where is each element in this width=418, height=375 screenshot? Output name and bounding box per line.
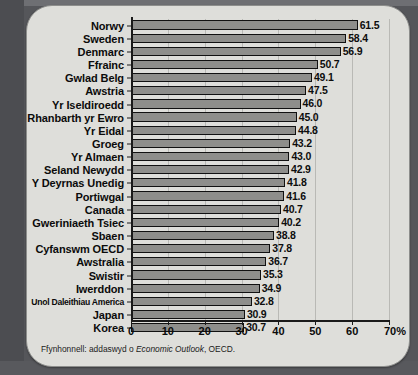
- x-axis-tick-label: 50: [309, 325, 321, 337]
- source-suffix: , OECD.: [204, 344, 235, 354]
- bar-row: 35.3: [131, 269, 389, 282]
- source-publication: Economic Outlook: [136, 344, 204, 354]
- bar: [131, 310, 245, 319]
- category-label: Sbaen: [27, 230, 129, 243]
- bar-row: 36.7: [131, 256, 389, 269]
- bar-value-label: 58.4: [348, 32, 368, 44]
- plot-area: 61.558.456.950.749.147.546.045.044.843.2…: [131, 19, 389, 322]
- bar-value-label: 61.5: [360, 19, 380, 31]
- category-label: Unol Daleithiau America: [27, 295, 129, 308]
- chart-panel: NorwySwedenDenmarcFfraincGwlad BelgAwstr…: [26, 5, 410, 367]
- category-label: Awstria: [27, 85, 129, 98]
- bar: [131, 152, 289, 161]
- bar: [131, 112, 297, 121]
- bar-value-label: 37.8: [272, 242, 292, 254]
- bar: [131, 86, 306, 95]
- category-label: Seland Newydd: [27, 164, 129, 177]
- bar: [131, 47, 341, 56]
- bar-value-label: 43.2: [292, 137, 312, 149]
- bar-row: 49.1: [131, 72, 389, 85]
- bar-row: 38.8: [131, 230, 389, 243]
- bar: [131, 284, 260, 293]
- category-label: Swistir: [27, 269, 129, 282]
- bar-value-label: 40.2: [281, 216, 301, 228]
- bar: [131, 191, 284, 200]
- bar: [131, 270, 261, 279]
- bar-value-label: 47.5: [308, 84, 328, 96]
- bar-row: 50.7: [131, 58, 389, 71]
- bar: [131, 139, 290, 148]
- chart-panel-inner: NorwySwedenDenmarcFfraincGwlad BelgAwstr…: [27, 6, 409, 366]
- bar-row: 44.8: [131, 124, 389, 137]
- category-label: Norwy: [27, 19, 129, 32]
- category-label: Portiwgal: [27, 190, 129, 203]
- category-label: Korea: [27, 322, 129, 335]
- bar: [131, 218, 279, 227]
- category-label: Yr Iseldiroedd: [27, 98, 129, 111]
- bar: [131, 34, 346, 43]
- bar: [131, 99, 301, 108]
- bar-row: 41.6: [131, 190, 389, 203]
- x-axis-tick-label: 10: [162, 325, 174, 337]
- bar-value-label: 35.3: [263, 268, 283, 280]
- bar-value-label: 38.8: [276, 229, 296, 241]
- bar-value-label: 45.0: [299, 111, 319, 123]
- bar-row: 40.2: [131, 216, 389, 229]
- x-axis-tick-label: 20: [199, 325, 211, 337]
- bar-value-label: 36.7: [268, 255, 288, 267]
- bar: [131, 178, 285, 187]
- x-axis-tick-label: 0: [128, 325, 134, 337]
- bar: [131, 297, 252, 306]
- bar: [131, 60, 318, 69]
- bar-series: 61.558.456.950.749.147.546.045.044.843.2…: [131, 19, 389, 322]
- bar-row: 40.7: [131, 203, 389, 216]
- category-axis-labels: NorwySwedenDenmarcFfraincGwlad BelgAwstr…: [27, 19, 129, 322]
- bar: [131, 126, 296, 135]
- category-label: Yr Eidal: [27, 124, 129, 137]
- backdrop-left-band: [0, 0, 24, 375]
- x-axis-tick-label: 60: [346, 325, 358, 337]
- bar-row: 43.2: [131, 137, 389, 150]
- category-label: Denmarc: [27, 45, 129, 58]
- bar-value-label: 32.8: [254, 295, 274, 307]
- category-label: Y Deyrnas Unedig: [27, 177, 129, 190]
- bar: [131, 20, 358, 29]
- category-label: Awstralia: [27, 256, 129, 269]
- bar: [131, 73, 312, 82]
- category-label: Canada: [27, 203, 129, 216]
- category-label: Ffrainc: [27, 58, 129, 71]
- category-label: Cyfanswm OECD: [27, 243, 129, 256]
- bar-row: 58.4: [131, 32, 389, 45]
- bar: [131, 165, 289, 174]
- source-note: Ffynhonnell: addaswyd o Economic Outlook…: [41, 344, 235, 354]
- category-label: Groeg: [27, 137, 129, 150]
- bar-value-label: 46.0: [303, 97, 323, 109]
- bar-row: 32.8: [131, 295, 389, 308]
- gridline: [389, 19, 390, 322]
- bar-row: 37.8: [131, 243, 389, 256]
- category-label: Sweden: [27, 32, 129, 45]
- y-axis-line: [131, 17, 133, 322]
- bar-value-label: 44.8: [298, 124, 318, 136]
- bar-row: 34.9: [131, 282, 389, 295]
- category-label: Gweriniaeth Tsiec: [27, 216, 129, 229]
- category-label: Yr Almaen: [27, 151, 129, 164]
- bar-value-label: 50.7: [320, 58, 340, 70]
- category-label: Rhanbarth yr Ewro: [27, 111, 129, 124]
- bar-value-label: 56.9: [343, 45, 363, 57]
- bar-row: 46.0: [131, 98, 389, 111]
- bar: [131, 231, 274, 240]
- x-axis-line: [131, 320, 389, 322]
- bar-row: 47.5: [131, 85, 389, 98]
- bar: [131, 205, 281, 214]
- bar-value-label: 34.9: [262, 282, 282, 294]
- source-prefix: Ffynhonnell: addaswyd o: [41, 344, 136, 354]
- bar-value-label: 30.9: [247, 308, 267, 320]
- x-axis-tick-label: 70%: [384, 325, 406, 337]
- bar-value-label: 42.9: [291, 163, 311, 175]
- category-label: Iwerddon: [27, 282, 129, 295]
- category-label: Gwlad Belg: [27, 72, 129, 85]
- x-axis-tick-label: 40: [272, 325, 284, 337]
- bar-value-label: 43.0: [291, 150, 311, 162]
- x-axis-tick-labels: 010203040506070%: [131, 325, 389, 341]
